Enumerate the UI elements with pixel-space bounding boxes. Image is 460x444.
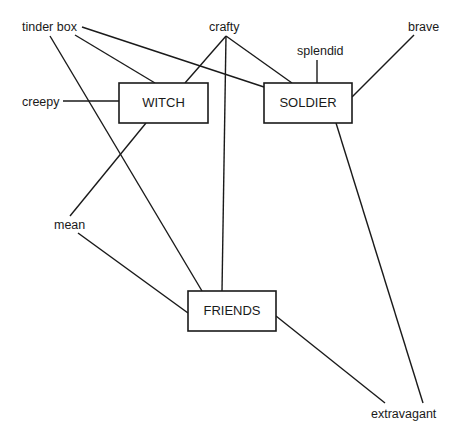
attribute-crafty: crafty	[209, 20, 240, 34]
edge-tinder-box-to-witch	[75, 35, 155, 83]
edge-crafty-to-witch	[185, 36, 226, 83]
friends-label: FRIENDS	[203, 303, 260, 318]
attribute-mean: mean	[54, 218, 85, 232]
attribute-creepy: creepy	[22, 95, 60, 109]
edge-crafty-to-soldier	[226, 36, 292, 83]
witch-label: WITCH	[142, 95, 185, 110]
edge-soldier-to-extravagant	[336, 123, 423, 403]
edge-friends-to-extravagant	[276, 316, 385, 403]
attribute-extravagant: extravagant	[371, 407, 437, 421]
concept-map: WITCH SOLDIER FRIENDS tinder box crafty …	[0, 0, 460, 444]
attribute-tinder-box: tinder box	[22, 20, 78, 34]
attribute-splendid: splendid	[297, 44, 344, 58]
node-friends: FRIENDS	[188, 291, 276, 331]
edge-mean-to-friends	[78, 233, 188, 313]
edge-brave-to-soldier	[352, 35, 414, 97]
node-witch: WITCH	[119, 83, 208, 123]
soldier-label: SOLDIER	[279, 95, 336, 110]
edge-tinder-box-to-soldier	[82, 27, 264, 87]
edge-witch-to-mean	[70, 123, 146, 216]
edge-layer	[50, 27, 423, 403]
attribute-brave: brave	[408, 20, 439, 34]
node-soldier: SOLDIER	[264, 83, 352, 123]
edge-tinder-box-to-friends	[50, 36, 202, 291]
